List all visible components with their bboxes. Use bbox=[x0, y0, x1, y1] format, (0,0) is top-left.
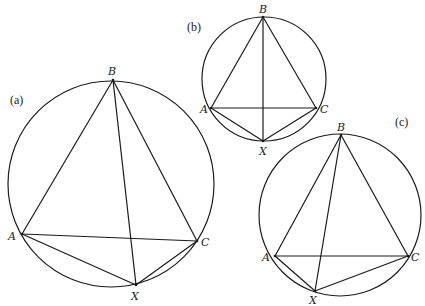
segment-ab bbox=[22, 80, 113, 234]
vertex-a-dot bbox=[21, 233, 24, 236]
vertex-x-dot bbox=[262, 140, 265, 143]
vertex-c-dot bbox=[315, 107, 318, 110]
panel-label-c: (c) bbox=[395, 115, 408, 129]
cyclic-quadrilateral-figure: ABCX(a) ABCX(b) ABCX(c) bbox=[0, 0, 425, 306]
vertex-label-c: C bbox=[320, 103, 329, 116]
panel-label-b: (b) bbox=[187, 20, 201, 34]
segment-bc bbox=[341, 135, 408, 256]
vertex-label-a: A bbox=[199, 103, 208, 116]
segment-ac bbox=[22, 234, 197, 241]
segment-ax bbox=[22, 234, 136, 285]
vertex-b-dot bbox=[340, 134, 343, 137]
vertex-c-dot bbox=[407, 255, 410, 258]
vertex-b-dot bbox=[112, 79, 115, 82]
vertex-label-c: C bbox=[411, 251, 420, 264]
vertex-label-b: B bbox=[336, 121, 345, 134]
vertex-a-dot bbox=[274, 255, 277, 258]
vertex-x-dot bbox=[135, 284, 138, 287]
panel-label-a: (a) bbox=[10, 93, 23, 107]
segment-ax bbox=[275, 256, 315, 291]
vertex-b-dot bbox=[262, 16, 265, 19]
panel-c: ABCX(c) bbox=[259, 115, 421, 306]
segment-bc bbox=[263, 17, 316, 108]
segment-ax bbox=[211, 108, 263, 141]
vertex-a-dot bbox=[210, 107, 213, 110]
circumcircle bbox=[259, 134, 421, 296]
vertex-label-b: B bbox=[107, 65, 116, 78]
segment-cx bbox=[315, 256, 408, 291]
vertex-label-x: X bbox=[258, 145, 268, 158]
circumcircle bbox=[8, 81, 214, 287]
circumcircle bbox=[202, 17, 326, 141]
segment-bx bbox=[113, 80, 136, 285]
vertex-x-dot bbox=[314, 290, 317, 293]
vertex-label-x: X bbox=[130, 290, 140, 303]
segment-ab bbox=[211, 17, 263, 108]
vertex-label-x: X bbox=[308, 294, 318, 306]
segment-bc bbox=[113, 80, 197, 241]
segment-cx bbox=[136, 241, 197, 285]
vertex-c-dot bbox=[196, 240, 199, 243]
vertex-label-a: A bbox=[7, 230, 16, 243]
vertex-label-b: B bbox=[258, 3, 267, 16]
panel-a: ABCX(a) bbox=[7, 65, 214, 303]
panel-b: ABCX(b) bbox=[187, 3, 329, 158]
vertex-label-a: A bbox=[261, 251, 270, 264]
vertex-label-c: C bbox=[201, 236, 210, 249]
